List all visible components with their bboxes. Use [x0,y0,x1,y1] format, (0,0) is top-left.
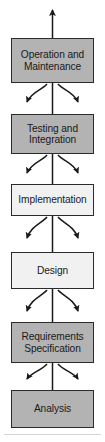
feedback-arrow-left-1 [27,84,47,102]
feedback-arrow-left-5 [27,364,47,379]
feedback-arrow-right-3 [58,217,78,238]
stage-label-analysis: Analysis [14,403,91,414]
stage-label-design: Design [14,265,91,276]
stage-box-analysis[interactable]: Analysis [11,390,94,428]
stage-box-implementation[interactable]: Implementation [11,184,94,216]
feedback-arrow-right-2 [58,155,78,173]
feedback-arrow-right-1 [58,84,78,102]
stage-box-design[interactable]: Design [11,252,94,289]
stage-label-implementation: Implementation [14,194,91,205]
feedback-arrow-left-3 [27,217,47,238]
feedback-arrow-right-5 [58,364,78,379]
stage-box-operation-and-maintenance[interactable]: Operation andMaintenance [11,38,94,83]
stage-label-operation-and-maintenance: Operation andMaintenance [14,49,91,72]
stage-box-testing-and-integration[interactable]: Testing andIntegration [11,114,94,154]
stage-label-requirements-specification: RequirementsSpecification [14,331,91,354]
flow-diagram: Operation andMaintenance Testing andInte… [0,0,105,442]
stage-label-testing-and-integration: Testing andIntegration [14,123,91,146]
horizontal-divider [4,434,101,435]
feedback-arrow-left-4 [27,290,47,311]
stage-box-requirements-specification[interactable]: RequirementsSpecification [11,322,94,363]
feedback-arrow-left-2 [27,155,47,173]
feedback-arrow-right-4 [58,290,78,311]
